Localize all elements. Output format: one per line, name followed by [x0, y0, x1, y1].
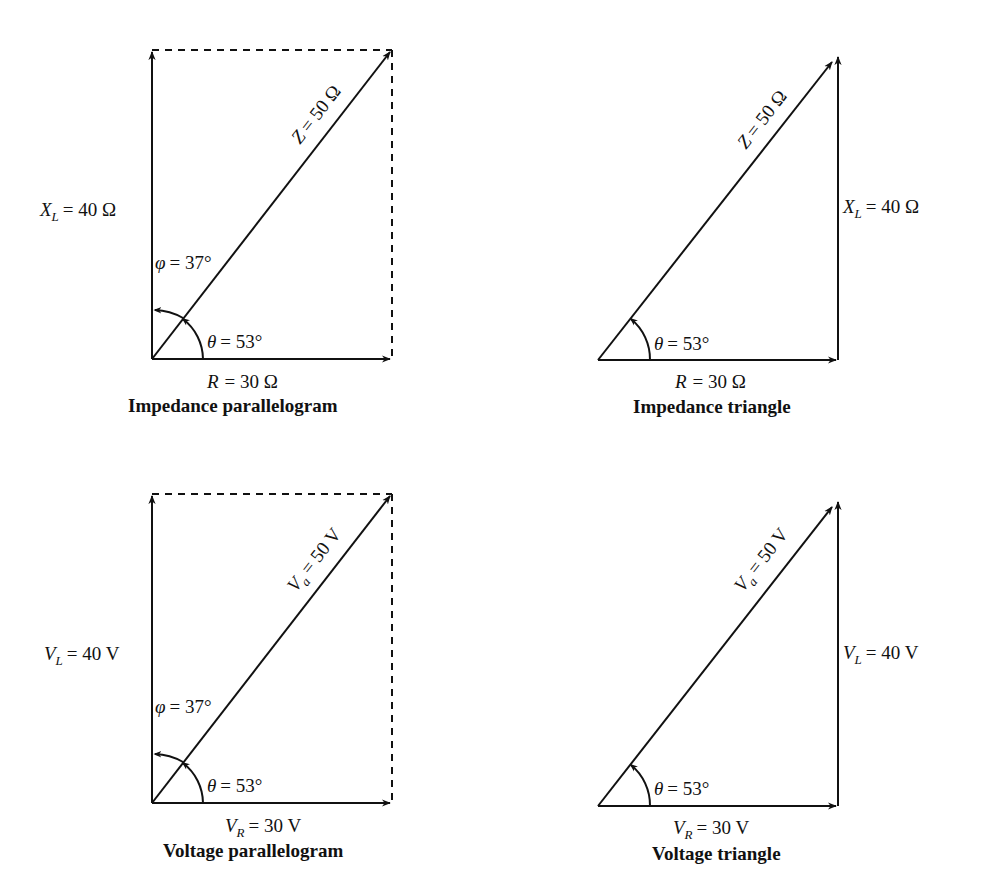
- theta-label: θ= 53°: [207, 331, 262, 352]
- theta-label: θ= 53°: [654, 333, 709, 354]
- horizontal-label: VR= 30 V: [225, 815, 301, 840]
- vertical-label: XL= 40 Ω: [39, 199, 116, 224]
- theta-label: θ= 53°: [207, 775, 262, 796]
- hypotenuse-label: Z= 50 Ω: [733, 86, 791, 152]
- theta-arc-arrow: [183, 319, 203, 359]
- theta-arc-arrow: [631, 319, 650, 360]
- voltage-parallelogram: VL= 40 V VR= 30 V Va= 50 V φ= 37° θ= 53°…: [44, 494, 392, 861]
- vertical-label: VL= 40 V: [44, 643, 120, 668]
- hypotenuse-label: Va= 50 V: [730, 523, 796, 597]
- phi-label: φ= 37°: [155, 252, 212, 273]
- caption: Voltage parallelogram: [163, 840, 343, 861]
- horizontal-label: R= 30 Ω: [674, 371, 746, 392]
- phi-arc-arrow: [155, 754, 183, 762]
- vertical-label: VL= 40 V: [843, 642, 919, 667]
- hypotenuse-vector-arrow: [152, 52, 390, 359]
- caption: Voltage triangle: [652, 843, 781, 864]
- impedance-parallelogram: XL= 40 Ω R= 30 Ω Z= 50 Ω φ= 37° θ= 53° I…: [39, 50, 392, 416]
- impedance-triangle: XL= 40 Ω R= 30 Ω Z= 50 Ω θ= 53° Impedanc…: [598, 57, 919, 417]
- theta-arc-arrow: [631, 765, 650, 806]
- theta-label: θ= 53°: [654, 778, 709, 799]
- hypotenuse-vector-arrow: [598, 62, 832, 360]
- hypotenuse-vector-arrow: [152, 496, 390, 803]
- phasor-diagrams-figure: XL= 40 Ω R= 30 Ω Z= 50 Ω φ= 37° θ= 53° I…: [0, 0, 995, 893]
- theta-arc-arrow: [183, 763, 203, 803]
- hypotenuse-vector-arrow: [598, 507, 832, 806]
- caption: Impedance parallelogram: [128, 395, 338, 416]
- phi-label: φ= 37°: [155, 696, 212, 717]
- hypotenuse-label: Z= 50 Ω: [287, 81, 345, 147]
- diagram-svg: XL= 40 Ω R= 30 Ω Z= 50 Ω φ= 37° θ= 53° I…: [0, 0, 995, 893]
- horizontal-label: VR= 30 V: [673, 817, 749, 842]
- horizontal-label: R= 30 Ω: [206, 371, 278, 392]
- caption: Impedance triangle: [633, 396, 791, 417]
- phi-arc-arrow: [155, 310, 183, 318]
- vertical-label: XL= 40 Ω: [842, 196, 919, 221]
- voltage-triangle: VL= 40 V VR= 30 V Va= 50 V θ= 53° Voltag…: [598, 502, 919, 864]
